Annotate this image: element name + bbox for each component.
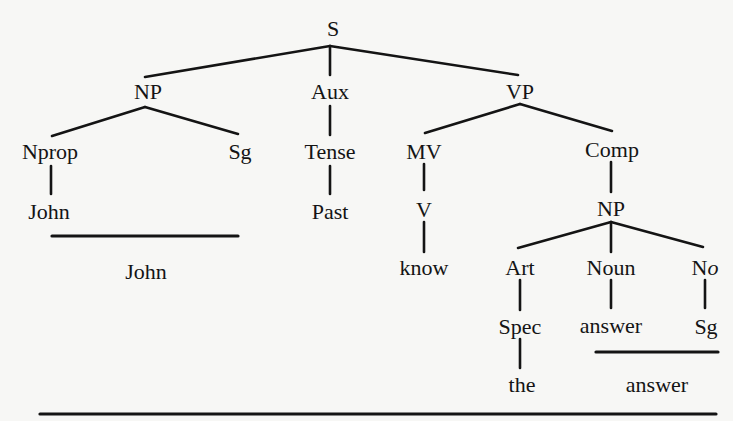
node-vp: VP xyxy=(506,81,534,103)
leaf-answer: answer xyxy=(580,315,642,337)
node-sg: Sg xyxy=(228,141,251,163)
node-noun: Noun xyxy=(587,257,636,279)
edge-np-art xyxy=(518,222,611,248)
derived-john: John xyxy=(125,261,167,283)
node-art: Art xyxy=(505,257,534,279)
node-aux: Aux xyxy=(311,81,349,103)
leaf-know: know xyxy=(400,257,449,279)
node-comp: Comp xyxy=(585,139,639,161)
node-tense: Tense xyxy=(305,141,356,163)
edge-np-nprop xyxy=(52,107,145,136)
node-no-o: o xyxy=(707,255,718,280)
edge-s-vp xyxy=(330,46,518,75)
node-mv: MV xyxy=(406,141,441,163)
edge-s-np xyxy=(145,46,330,77)
node-np-object: NP xyxy=(597,198,625,220)
leaf-john: John xyxy=(28,201,70,223)
node-s: S xyxy=(327,18,339,40)
edge-vp-comp xyxy=(520,104,612,131)
edge-vp-mv xyxy=(425,104,520,133)
node-np: NP xyxy=(134,81,162,103)
node-no-n: N xyxy=(692,255,708,280)
edge-np-no xyxy=(611,222,703,247)
node-nprop: Nprop xyxy=(22,141,78,163)
derived-answer: answer xyxy=(626,374,688,396)
edge-np-sg xyxy=(145,107,238,134)
syntax-tree-diagram: S NP Aux VP Nprop Sg Tense MV Comp John … xyxy=(0,0,733,421)
node-v: V xyxy=(416,199,432,221)
leaf-the: the xyxy=(509,374,536,396)
node-sg-2: Sg xyxy=(694,316,717,338)
node-no: No xyxy=(692,257,719,279)
node-spec: Spec xyxy=(499,316,542,338)
leaf-past: Past xyxy=(312,201,349,223)
